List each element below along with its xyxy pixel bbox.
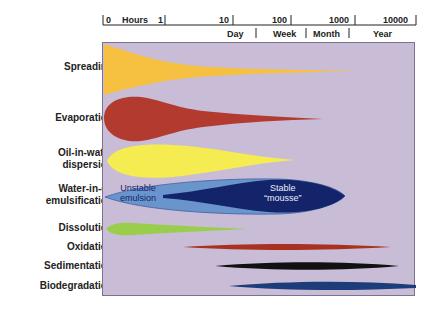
label-line: Stable xyxy=(264,183,302,193)
unstable-emulsion-label: Unstable emulsion xyxy=(120,183,156,203)
tick-1000: 1000 xyxy=(329,15,349,25)
tick-10000: 10000 xyxy=(383,15,408,25)
biodegradation-shape xyxy=(229,282,416,290)
label-line: Unstable xyxy=(120,183,156,193)
axis-lines xyxy=(0,0,435,42)
dispersion-shape xyxy=(107,145,295,178)
sedimentation-shape xyxy=(215,262,399,270)
tick-day: Day xyxy=(227,29,244,39)
label-line: “mousse” xyxy=(264,193,302,203)
spreading-shape xyxy=(104,44,353,95)
process-shapes xyxy=(103,43,416,297)
dissolution-shape xyxy=(106,223,248,236)
plot-area: Unstable emulsion Stable “mousse” xyxy=(102,42,415,296)
tick-year: Year xyxy=(373,29,392,39)
tick-0: 0 xyxy=(106,15,111,25)
tick-week: Week xyxy=(273,29,296,39)
label-line: emulsion xyxy=(120,193,156,203)
stable-mousse-label: Stable “mousse” xyxy=(264,183,302,203)
oxidation-shape xyxy=(183,244,391,250)
tick-100: 100 xyxy=(272,15,287,25)
tick-hours: Hours xyxy=(122,15,148,25)
tick-10: 10 xyxy=(219,15,229,25)
evaporation-shape xyxy=(104,97,323,142)
tick-month: Month xyxy=(313,29,340,39)
tick-1: 1 xyxy=(158,15,163,25)
